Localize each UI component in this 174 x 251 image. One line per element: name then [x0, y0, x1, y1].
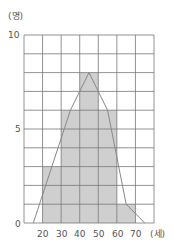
y-tick-0: 0 — [15, 219, 21, 229]
histogram-chart: (명) 10 5 0 20 30 40 50 60 70 (세) — [0, 0, 174, 251]
x-tick-40: 40 — [74, 229, 86, 239]
x-tick-30: 30 — [56, 229, 68, 239]
x-tick-70: 70 — [130, 229, 142, 239]
histogram-bar — [43, 167, 62, 223]
histogram-bar — [117, 204, 136, 223]
x-tick-20: 20 — [37, 229, 49, 239]
x-axis-unit: (세) — [150, 229, 165, 239]
y-tick-5: 5 — [15, 124, 21, 134]
y-axis-unit: (명) — [8, 11, 23, 21]
x-tick-50: 50 — [93, 229, 105, 239]
x-tick-60: 60 — [112, 229, 124, 239]
y-tick-10: 10 — [8, 30, 20, 40]
